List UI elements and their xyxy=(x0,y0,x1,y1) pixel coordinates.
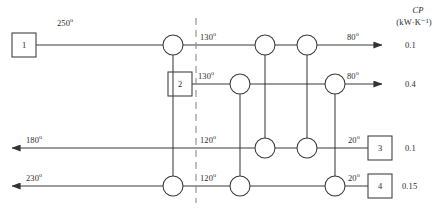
stream-1-box-number: 1 xyxy=(12,41,36,50)
stream-4-cp-value: 0.15 xyxy=(402,182,417,191)
stream-2-cp-value: 0.4 xyxy=(405,80,416,89)
stream-1-outlet-temp: 80o xyxy=(347,33,359,42)
exchanger-c-cold xyxy=(255,138,275,158)
figure-canvas: 1 2 3 4 250o 130o 80o 130o 80o 180o 120o… xyxy=(0,0,442,211)
stream-3-box-number: 3 xyxy=(368,144,392,153)
exchanger-d-hot xyxy=(297,35,317,55)
cp-header-symbol: CP xyxy=(396,6,440,15)
stream-4-outlet-temp: 230o xyxy=(26,174,42,183)
stream-1-cp-value: 0.1 xyxy=(405,41,416,50)
stream-3-cp-value: 0.1 xyxy=(405,144,416,153)
stream-4-box-number: 4 xyxy=(368,182,392,191)
exchanger-d-cold xyxy=(297,138,317,158)
stream-3-outlet-temp: 180o xyxy=(26,136,42,145)
exchanger-b-cold xyxy=(230,176,250,196)
stream-1-pinch-temp: 130o xyxy=(200,33,216,42)
stream-4-pinch-temp: 120o xyxy=(200,174,216,183)
exchanger-a-cold xyxy=(163,176,183,196)
stream-3-pinch-temp: 120o xyxy=(200,136,216,145)
exchanger-b-hot xyxy=(230,74,250,94)
stream-4-inlet-temp: 20o xyxy=(348,174,360,183)
cp-header-units: (kW·K⁻¹) xyxy=(386,18,442,27)
exchanger-e-hot xyxy=(325,74,345,94)
stream-2-outlet-temp: 80o xyxy=(347,72,359,81)
exchanger-c-hot xyxy=(255,35,275,55)
network-diagram xyxy=(0,0,442,211)
stream-1-inlet-temp: 250o xyxy=(57,19,73,28)
stream-2-pinch-temp: 130o xyxy=(198,72,214,81)
exchanger-a-hot xyxy=(163,35,183,55)
exchanger-e-cold xyxy=(325,176,345,196)
stream-2-box-number: 2 xyxy=(168,80,192,89)
stream-3-inlet-temp: 20o xyxy=(348,136,360,145)
